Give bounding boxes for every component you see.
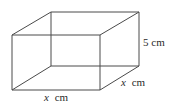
- edge-depth-top-right: [100, 12, 139, 35]
- width-label: x cm: [43, 91, 69, 103]
- edge-depth-bottom-left: [12, 66, 51, 90]
- depth-edges: [12, 12, 139, 90]
- depth-unit: cm: [132, 76, 146, 88]
- width-unit: cm: [55, 91, 69, 103]
- edge-depth-top-left: [12, 12, 51, 35]
- height-label: 5 cm: [143, 36, 165, 48]
- depth-variable: x: [120, 76, 126, 88]
- cuboid-diagram: 5 cm x cm x cm: [0, 0, 180, 104]
- depth-label: x cm: [120, 76, 146, 88]
- width-variable: x: [43, 91, 49, 103]
